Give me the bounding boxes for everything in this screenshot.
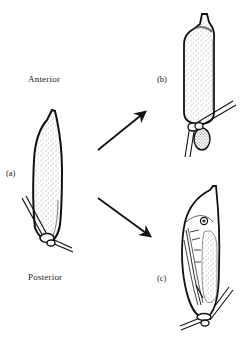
- cocoon-a-icon: [22, 110, 73, 252]
- panel-c-label: (c): [157, 273, 166, 283]
- anterior-label: Anterior: [28, 74, 60, 84]
- cocoon-b-icon: [184, 14, 236, 157]
- posterior-label: Posterior: [28, 272, 62, 282]
- arrow-to-c: [98, 198, 150, 236]
- diagram-canvas: [0, 0, 246, 339]
- pupa-c-icon: [180, 186, 233, 330]
- arrow-to-b: [98, 112, 145, 150]
- diagram-figure: Anterior Posterior (a) (b) (c): [0, 0, 246, 339]
- panel-b-label: (b): [157, 74, 167, 84]
- panel-a-label: (a): [6, 168, 15, 178]
